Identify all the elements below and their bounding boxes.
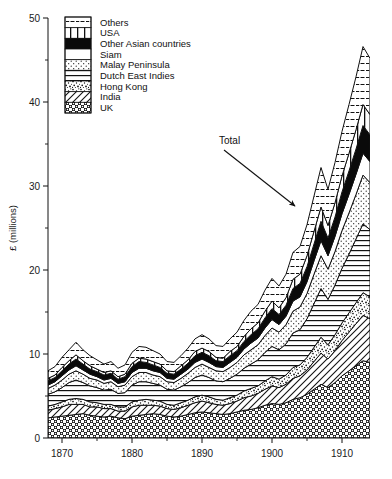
total-annotation-label: Total: [219, 135, 240, 146]
legend-swatch-malay-peninsula: [65, 60, 91, 71]
legend-swatch-usa: [65, 28, 91, 39]
y-tick-label: 30: [29, 181, 41, 192]
legend-label-others: Others: [100, 17, 129, 28]
legend-label-dutch-east-indies: Dutch East Indies: [100, 70, 175, 81]
legend-label-hong-kong: Hong Kong: [100, 81, 148, 92]
y-tick-label: 0: [34, 433, 40, 444]
y-tick-label: 40: [29, 97, 41, 108]
legend-swatch-siam: [65, 49, 91, 60]
legend-swatch-uk: [65, 102, 91, 113]
legend-swatch-india: [65, 92, 91, 103]
legend-label-uk: UK: [100, 102, 114, 113]
legend-label-other-asian-countries: Other Asian countries: [100, 38, 191, 49]
x-tick-label: 1890: [191, 448, 214, 459]
legend-label-malay-peninsula: Malay Peninsula: [100, 59, 170, 70]
x-tick-label: 1900: [261, 448, 284, 459]
chart-root: £ (millions) 01020304050 187018801890190…: [0, 0, 392, 479]
legend-label-india: India: [100, 91, 121, 102]
legend-swatches: [65, 17, 91, 113]
legend-swatch-dutch-east-indies: [65, 70, 91, 81]
legend-label-usa: USA: [100, 27, 120, 38]
legend-swatch-hong-kong: [65, 81, 91, 92]
y-tick-label: 10: [29, 349, 41, 360]
y-tick-label: 20: [29, 265, 41, 276]
legend-swatch-others: [65, 17, 91, 28]
legend-label-siam: Siam: [100, 49, 122, 60]
y-tick-label: 50: [29, 13, 41, 24]
x-tick-label: 1910: [331, 448, 354, 459]
legend-swatch-other-asian-countries: [65, 38, 91, 49]
stacked-area-chart: £ (millions) 01020304050 187018801890190…: [0, 0, 392, 479]
y-axis-title: £ (millions): [7, 205, 18, 251]
x-tick-label: 1870: [51, 448, 74, 459]
x-tick-label: 1880: [121, 448, 144, 459]
